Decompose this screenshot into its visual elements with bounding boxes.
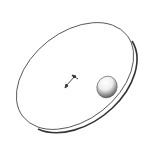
disc-outline-icon — [0, 1, 150, 143]
disc-diagram — [0, 0, 150, 143]
